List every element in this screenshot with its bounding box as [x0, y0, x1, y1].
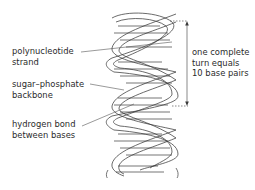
label-line: polynucleotide — [12, 46, 74, 57]
polynucleotide-strand-a — [112, 14, 176, 176]
dna-double-helix-diagram: polynucleotide strand sugar–phosphate ba… — [0, 0, 255, 190]
label-line: one complete — [192, 47, 249, 58]
label-line: 10 base pairs — [192, 68, 249, 79]
polynucleotide-strand-b — [106, 13, 178, 170]
label-line: turn equals — [192, 58, 249, 69]
label-line: strand — [12, 57, 74, 68]
label-polynucleotide-strand: polynucleotide strand — [12, 46, 74, 67]
label-sugar-phosphate-backbone: sugar–phosphate backbone — [12, 79, 84, 100]
leader-backbone — [90, 84, 124, 90]
turn-dimension-marker — [170, 21, 189, 106]
label-complete-turn: one complete turn equals 10 base pairs — [192, 47, 249, 79]
label-line: hydrogen bond — [12, 119, 75, 130]
label-hydrogen-bond: hydrogen bond between bases — [12, 119, 75, 140]
label-line: backbone — [12, 90, 84, 101]
label-line: sugar–phosphate — [12, 79, 84, 90]
label-line: between bases — [12, 130, 75, 141]
base-pair-rungs — [114, 26, 172, 172]
